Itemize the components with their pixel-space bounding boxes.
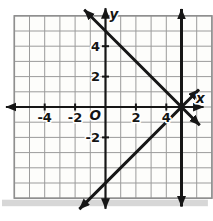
- graph-render-root: -4-22442-2: [2, 8, 212, 209]
- origin-label: O: [90, 107, 101, 123]
- y-axis-label: y: [110, 6, 120, 22]
- graph-canvas: -4-22442-2 y x O: [0, 0, 213, 221]
- coordinate-graph-figure: -4-22442-2 y x O: [0, 0, 213, 221]
- y-tick-label: 2: [91, 69, 100, 84]
- x-tick-label: 4: [162, 110, 171, 125]
- x-tick-label: -2: [68, 110, 82, 125]
- x-tick-label: 2: [131, 110, 140, 125]
- y-tick-label: -2: [86, 130, 100, 145]
- x-axis-label: x: [195, 90, 206, 106]
- x-tick-label: -4: [37, 110, 51, 125]
- y-tick-label: 4: [91, 39, 100, 54]
